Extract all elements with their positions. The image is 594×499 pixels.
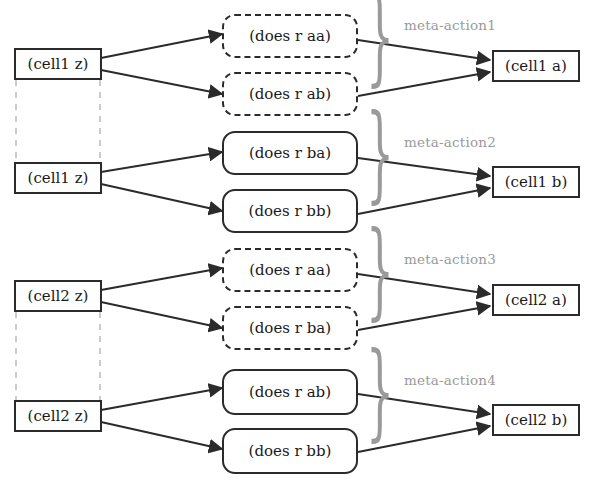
action-node-group-2-1[interactable]: (does r bb) — [222, 189, 358, 233]
source-state-label: (cell1 z) — [28, 169, 89, 187]
target-state-label: (cell1 a) — [505, 57, 567, 75]
source-state-label: (cell1 z) — [28, 55, 89, 73]
action-node-label: (does r aa) — [249, 27, 331, 45]
source-state-label: (cell2 z) — [28, 287, 89, 305]
brace-group-1: } — [366, 0, 394, 89]
action-node-label: (does r bb) — [249, 202, 332, 220]
action-node-group-4-1[interactable]: (does r bb) — [222, 428, 358, 474]
target-state-group-1[interactable]: (cell1 a) — [492, 50, 580, 82]
action-node-group-1-1[interactable]: (does r ab) — [222, 72, 358, 116]
meta-action-label-2: meta-action2 — [404, 134, 496, 150]
meta-action-label-3: meta-action3 — [404, 251, 496, 267]
action-node-label: (does r bb) — [249, 442, 332, 460]
target-state-group-4[interactable]: (cell2 b) — [492, 404, 580, 436]
meta-action-diagram: (cell1 z) (does r aa) (does r ab) } meta… — [0, 0, 594, 499]
action-node-label: (does r ab) — [249, 383, 331, 401]
action-node-label: (does r ba) — [249, 319, 331, 337]
source-dashed-connectors — [16, 80, 100, 400]
source-state-group-3[interactable]: (cell2 z) — [14, 280, 102, 312]
action-node-label: (does r aa) — [249, 261, 331, 279]
brace-group-2: } — [366, 100, 394, 206]
target-state-label: (cell2 b) — [505, 411, 568, 429]
brace-group-3: } — [366, 217, 394, 323]
source-state-label: (cell2 z) — [28, 407, 89, 425]
source-state-group-2[interactable]: (cell1 z) — [14, 162, 102, 194]
target-state-group-2[interactable]: (cell1 b) — [492, 166, 580, 198]
meta-action-label-4: meta-action4 — [404, 372, 496, 388]
action-node-group-4-0[interactable]: (does r ab) — [222, 369, 358, 415]
brace-group-4: } — [366, 338, 394, 444]
action-node-group-2-0[interactable]: (does r ba) — [222, 131, 358, 175]
action-node-label: (does r ab) — [249, 85, 331, 103]
action-node-label: (does r ba) — [249, 144, 331, 162]
action-node-group-3-1[interactable]: (does r ba) — [222, 306, 358, 350]
source-state-group-1[interactable]: (cell1 z) — [14, 48, 102, 80]
source-state-group-4[interactable]: (cell2 z) — [14, 400, 102, 432]
action-node-group-1-0[interactable]: (does r aa) — [222, 14, 358, 58]
target-state-group-3[interactable]: (cell2 a) — [492, 284, 580, 316]
target-state-label: (cell1 b) — [505, 173, 568, 191]
meta-action-label-1: meta-action1 — [404, 17, 496, 33]
action-node-group-3-0[interactable]: (does r aa) — [222, 248, 358, 292]
target-state-label: (cell2 a) — [505, 291, 567, 309]
